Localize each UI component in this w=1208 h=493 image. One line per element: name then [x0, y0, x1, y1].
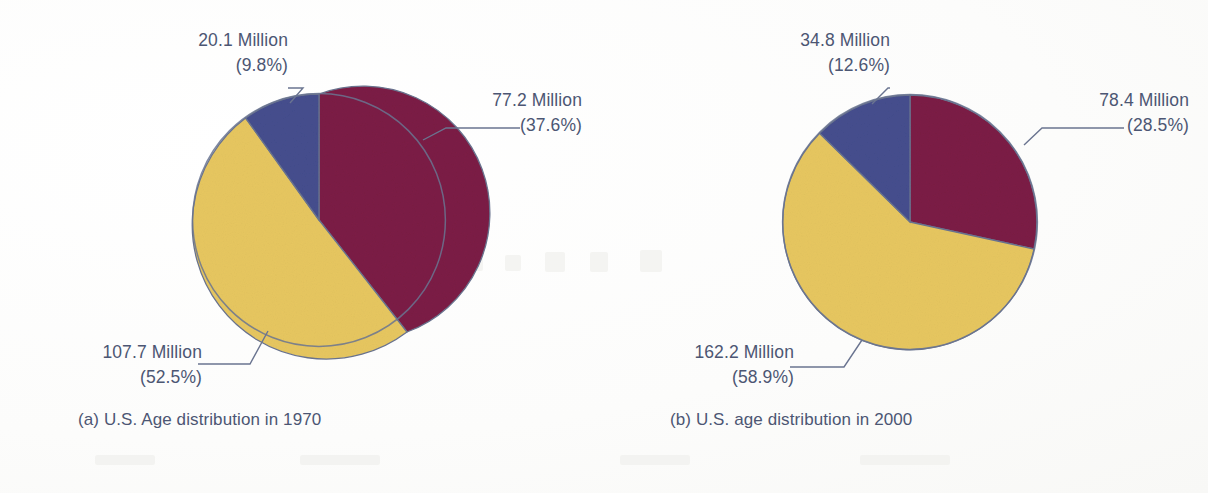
slice-label-blue-value: 20.1 Million: [152, 28, 288, 53]
figure-caption-b: (b) U.S. age distribution in 2000: [670, 410, 912, 430]
slice-label-red-percent: (28.5%): [1067, 113, 1189, 138]
slice-label-blue: 34.8 Million (12.6%): [754, 28, 890, 78]
slice-label-yellow-value: 107.7 Million: [62, 340, 202, 365]
slice-label-blue-value: 34.8 Million: [754, 28, 890, 53]
slice-label-red-value: 77.2 Million: [462, 88, 582, 113]
slice-label-yellow-value: 162.2 Million: [652, 340, 794, 365]
slice-label-red-value: 78.4 Million: [1067, 88, 1189, 113]
slice-label-blue: 20.1 Million (9.8%): [152, 28, 288, 78]
leader-line-yellow: [790, 340, 862, 367]
pie-chart-1970: 20.1 Million (9.8%) 77.2 Million (37.6%)…: [0, 0, 604, 493]
slice-label-red: 78.4 Million (28.5%): [1067, 88, 1189, 138]
slice-label-blue-percent: (9.8%): [152, 53, 288, 78]
figure-caption-a: (a) U.S. Age distribution in 1970: [78, 410, 321, 430]
slice-label-yellow: 162.2 Million (58.9%): [652, 340, 794, 390]
slice-label-blue-percent: (12.6%): [754, 53, 890, 78]
pie-chart-2000: 34.8 Million (12.6%) 78.4 Million (28.5%…: [604, 0, 1208, 493]
slice-label-yellow-percent: (58.9%): [652, 365, 794, 390]
slice-label-yellow-percent: (52.5%): [62, 365, 202, 390]
slice-label-red: 77.2 Million (37.6%): [462, 88, 582, 138]
slice-label-red-percent: (37.6%): [462, 113, 582, 138]
slice-label-yellow: 107.7 Million (52.5%): [62, 340, 202, 390]
